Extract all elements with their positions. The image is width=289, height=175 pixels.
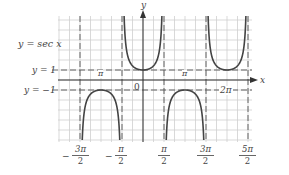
- origin-label: 0: [134, 83, 140, 92]
- pi-label: π: [182, 70, 187, 78]
- tick-label: 3π 2: [197, 145, 214, 165]
- tick-numerator: 5π: [239, 145, 256, 156]
- y-equals-neg1-label: y = −1: [24, 86, 56, 95]
- y-axis-label: y: [141, 1, 146, 10]
- asymptotes: [52, 16, 252, 142]
- tick-minus: −: [105, 152, 113, 161]
- grid: [58, 16, 252, 142]
- tick-label: π 2: [158, 145, 170, 165]
- tick-numerator: π: [158, 145, 170, 156]
- tick-numerator: 3π: [72, 145, 89, 156]
- tick-denominator: 2: [72, 156, 89, 166]
- neg-pi-label: π: [98, 70, 103, 78]
- tick-label: 3π 2: [72, 145, 89, 165]
- two-pi-label: 2π: [219, 86, 233, 95]
- y-axis-arrow-icon: [140, 10, 146, 18]
- tick-denominator: 2: [239, 156, 256, 166]
- tick-numerator: 3π: [197, 145, 214, 156]
- tick-denominator: 2: [197, 156, 214, 166]
- function-label: y = sec x: [18, 39, 62, 49]
- x-axis-arrow-icon: [250, 77, 258, 83]
- tick-denominator: 2: [115, 156, 127, 166]
- tick-minus: −: [62, 152, 70, 161]
- y-equals-1-label: y = 1: [32, 66, 56, 75]
- tick-label: π 2: [115, 145, 127, 165]
- tick-numerator: π: [115, 145, 127, 156]
- x-axis-label: x: [260, 76, 265, 85]
- tick-denominator: 2: [158, 156, 170, 166]
- tick-label: 5π 2: [239, 145, 256, 165]
